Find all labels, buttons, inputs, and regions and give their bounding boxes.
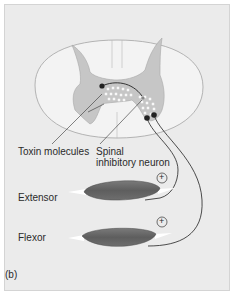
plus-sign-flexor: + — [159, 216, 164, 227]
label-flexor: Flexor — [18, 232, 46, 243]
label-spinal-line2: inhibitory neuron — [96, 157, 170, 168]
plus-sign-extensor: + — [159, 172, 164, 183]
extensor-muscle — [68, 181, 176, 200]
label-toxin-molecules: Toxin molecules — [18, 146, 89, 157]
label-spinal-line1: Spinal — [96, 146, 124, 157]
flexor-motor-axon — [148, 115, 202, 246]
flexor-muscle — [68, 228, 172, 246]
label-extensor: Extensor — [18, 192, 57, 203]
inhibitory-neuron-body — [99, 83, 104, 88]
panel-label: (b) — [5, 269, 17, 280]
